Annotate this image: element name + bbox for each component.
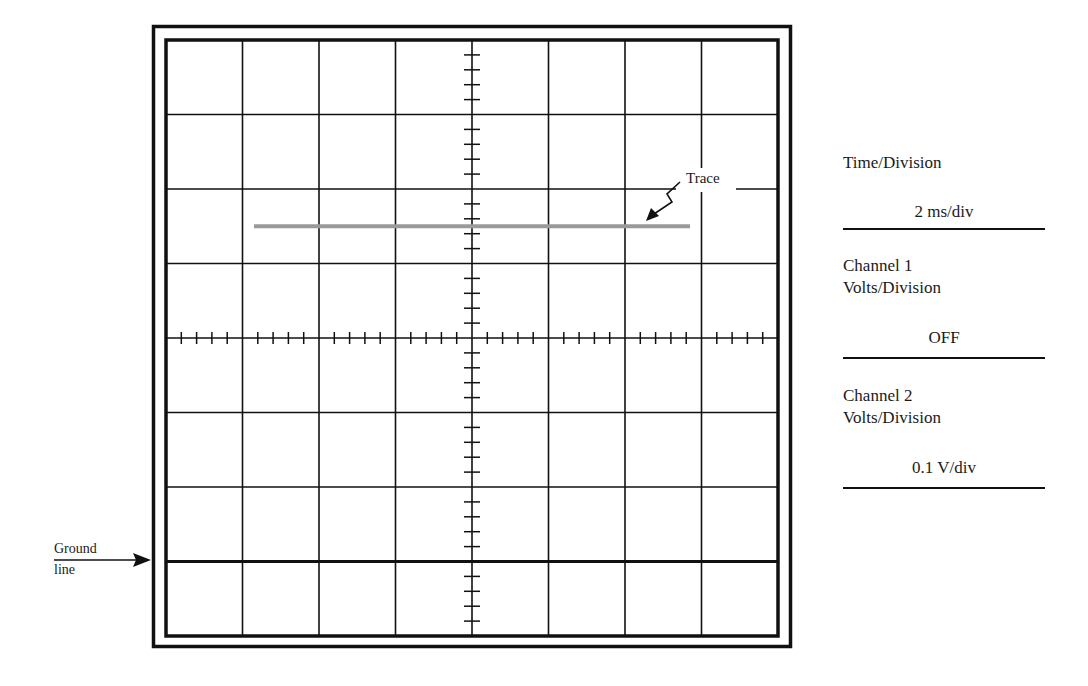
channel2-label-line2: Volts/Division [843, 407, 941, 429]
channel1-label-line2: Volts/Division [843, 277, 941, 299]
trace-pointer-arrow-icon [646, 182, 680, 221]
trace-label: Trace [686, 170, 720, 186]
ground-label-line2: line [54, 562, 75, 578]
channel2-label-line1: Channel 2 [843, 385, 912, 407]
channel2-underline [843, 487, 1045, 489]
channel1-value: OFF [843, 327, 1045, 349]
channel1-label-line1: Channel 1 [843, 255, 912, 277]
channel1-underline [843, 357, 1045, 359]
ground-label-line1: Ground [54, 541, 97, 557]
channel2-value: 0.1 V/div [843, 457, 1045, 479]
time-division-label: Time/Division [843, 152, 942, 174]
time-division-value: 2 ms/div [843, 201, 1045, 223]
time-division-underline [843, 228, 1045, 230]
